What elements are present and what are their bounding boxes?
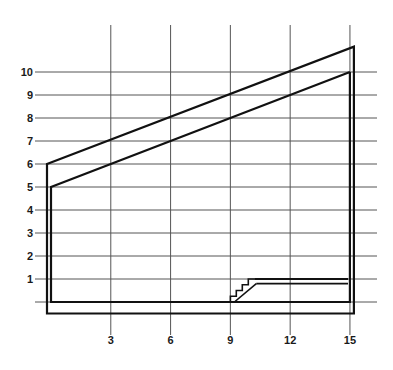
chart: 3691215 12345678910 bbox=[0, 0, 393, 370]
staircase bbox=[230, 279, 254, 302]
y-tick-label: 10 bbox=[21, 66, 33, 78]
y-tick-label: 3 bbox=[27, 227, 33, 239]
horizontal-gridlines bbox=[35, 72, 377, 302]
x-tick-label: 15 bbox=[344, 334, 356, 346]
y-tick-label: 2 bbox=[27, 250, 33, 262]
y-tick-labels: 12345678910 bbox=[21, 66, 34, 285]
x-tick-label: 9 bbox=[227, 334, 233, 346]
y-tick-label: 1 bbox=[27, 273, 33, 285]
y-tick-label: 6 bbox=[27, 158, 33, 170]
y-tick-label: 5 bbox=[27, 181, 33, 193]
y-tick-label: 9 bbox=[27, 89, 33, 101]
outer-boundary bbox=[47, 47, 354, 314]
x-tick-label: 12 bbox=[284, 334, 296, 346]
y-tick-label: 4 bbox=[27, 204, 34, 216]
x-tick-labels: 3691215 bbox=[108, 334, 356, 346]
x-tick-label: 3 bbox=[108, 334, 114, 346]
series-layer bbox=[47, 47, 354, 314]
y-tick-label: 7 bbox=[27, 135, 33, 147]
y-tick-label: 8 bbox=[27, 112, 33, 124]
staircase-ramp bbox=[234, 284, 256, 302]
x-tick-label: 6 bbox=[168, 334, 174, 346]
